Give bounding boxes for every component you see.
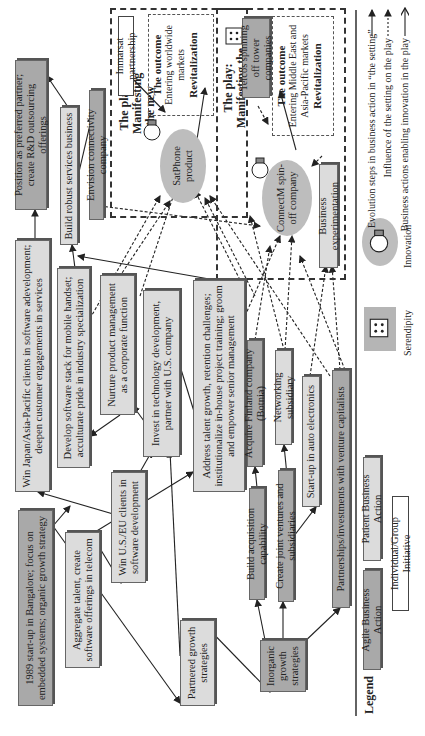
diagram-canvas: The play: Manifesting the new The play: … (0, 0, 425, 736)
outcome-title: The outcome (151, 17, 163, 113)
node-invest-tech: Invest in technology development, partne… (143, 290, 180, 457)
lightbulb-icon (140, 118, 164, 142)
legend-title: Legend (362, 676, 377, 714)
node-partnerships-vc: Partnerships/investments with venture ca… (332, 370, 350, 608)
lightbulb-icon (248, 156, 272, 180)
node-start-up-1989: 1989 start-up in Bangalore; focus on emb… (18, 510, 53, 706)
node-build-services: Build robust services business (60, 107, 78, 245)
node-nurture-product: Nurture product management as a corporat… (100, 275, 135, 415)
node-build-acquisition: Build acquisition capability (249, 488, 265, 600)
node-win-us-eu: Win U.S./EU clients in software developm… (111, 472, 146, 583)
node-inorganic-growth: Inorganic growth strategies (260, 640, 306, 692)
node-networking: Networking subsidiary (275, 350, 292, 445)
node-position-partner: Position as preferred partner; create R&… (15, 60, 47, 210)
legend-arrow-evolution: Evolution steps in business action in “t… (366, 38, 377, 228)
node-auto-electronics: Start-up in auto electronics (302, 376, 320, 507)
node-partnered-growth: Partnered growth strategies (180, 620, 215, 706)
node-address-talent: Address talent growth, retention challen… (193, 280, 245, 492)
outcome-text: Entering worldwide markets (163, 17, 187, 113)
outcome-satphone: The outcome Entering worldwide markets R… (148, 14, 214, 116)
legend-serendipity-label: Serendipity (402, 310, 413, 356)
outcome-connectm: The outcome Entering Middle East and Asi… (272, 16, 334, 136)
legend-arrow-enabling: Business actions enabling innovation in … (399, 38, 410, 238)
legend-agile: Agile Business Action (363, 570, 381, 670)
outcome-text: Entering Middle East and Asia-Pacific ma… (287, 19, 311, 133)
node-acquire-finland: Acquire Finland company (Botnia) (247, 340, 263, 467)
innovation-satphone: SatPhone product (160, 129, 206, 203)
lightbulb-icon (366, 228, 392, 254)
outcome-result: Revitalization (311, 19, 323, 133)
node-win-japan: Win Japan/Asia-Pacific clients in softwa… (15, 240, 50, 492)
node-aggregate-talent: Aggregate talent, create software offeri… (65, 532, 100, 668)
legend-patient: Patient Business Action (363, 457, 381, 561)
legend-arrow-influence: Influence of the setting on the play (382, 38, 393, 228)
node-business-experimentation: Business experimentation (319, 164, 338, 268)
outcome-result: Revitalization (187, 17, 199, 113)
outcome-title: The outcome (275, 19, 287, 133)
node-envision: Envision connectivity company (89, 90, 104, 220)
node-develop-stack: Develop software stack for mobile handse… (57, 268, 90, 468)
node-inmarsat: Inmarsat partnership (118, 16, 134, 96)
node-joint-ventures: Create joint ventures and subsidiaries (278, 470, 294, 602)
dice-icon (367, 316, 391, 340)
legend-individual: Individual/Group Initiative (392, 496, 409, 611)
node-telcos: Telcos spinning off tower companies (242, 18, 270, 98)
